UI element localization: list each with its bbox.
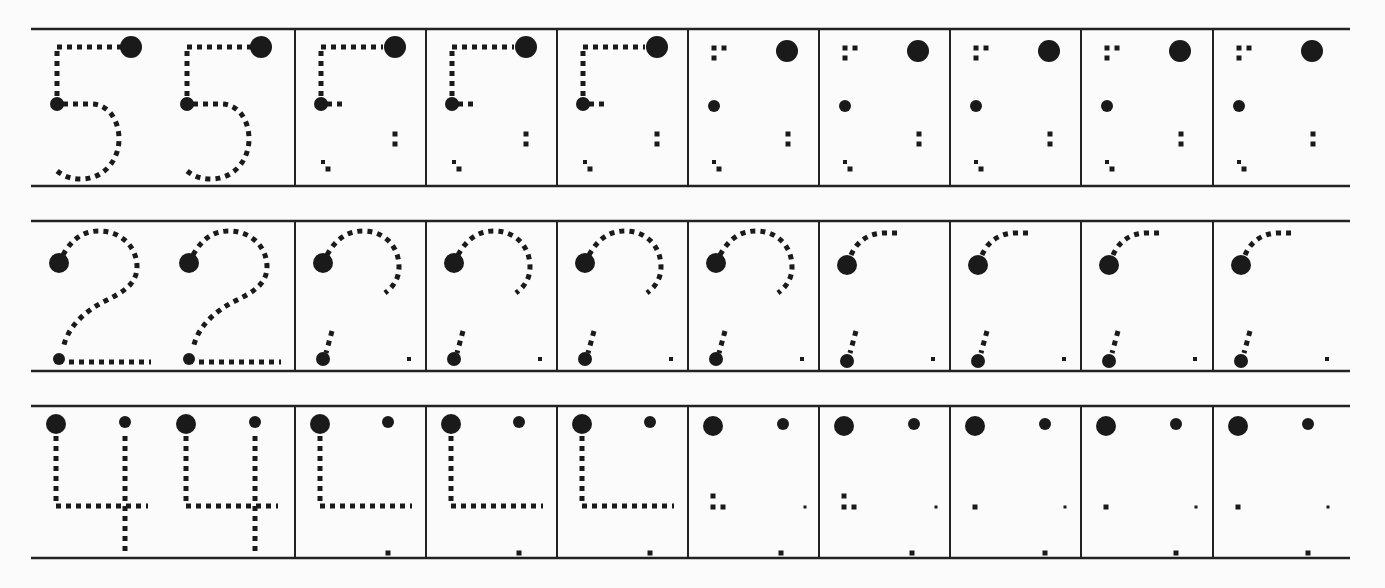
trace-dot [843,56,848,61]
trace-dots [327,231,399,293]
trace-dot [786,132,791,137]
trace-dot [321,160,325,164]
trace-dots [458,231,530,293]
start-dot-large [968,255,988,275]
start-dot-small [382,416,394,428]
start-dot-large [1099,255,1119,275]
trace-dot [712,160,716,164]
start-dot-large [49,253,69,273]
start-dot-small [50,97,64,111]
start-dot-large [1169,40,1191,62]
tracing-cell-4-9 [1096,416,1198,556]
trace-dots [589,231,661,293]
start-dot-small [180,97,194,111]
start-dot-large [706,253,726,273]
trace-dot [722,46,727,51]
tracing-cell-2-6 [706,231,804,366]
start-dot-large [1038,40,1060,62]
trace-dot [974,46,979,51]
trace-dots [1113,233,1163,255]
trace-dots [185,104,249,179]
trace-dot [910,551,915,556]
tracing-cell-2-1 [49,231,151,365]
start-dot-large [1231,255,1251,275]
trace-dots [457,331,463,353]
trace-dot [1105,56,1110,61]
tracing-cell-4-3 [310,414,412,556]
tracing-cell-5-1 [50,36,142,179]
start-dot-small [1234,354,1248,368]
trace-dot [917,142,922,147]
trace-dot [1179,142,1184,147]
trace-dot [1311,132,1316,137]
trace-dot [843,160,847,164]
start-dot-large [965,416,985,436]
trace-dot [974,56,979,61]
tracing-cell-2-3 [313,231,411,366]
tracing-cell-5-7 [839,40,929,172]
trace-dot [721,505,726,510]
trace-dot [917,132,922,137]
start-dot-large [776,40,798,62]
worksheet-canvas [0,0,1385,588]
trace-dots [981,331,987,353]
trace-dot [1105,46,1110,51]
trace-dot [1237,160,1241,164]
trace-dot [1179,132,1184,137]
trace-dot [1237,56,1242,61]
start-dot-small [314,97,328,111]
trace-dot [1195,506,1198,509]
trace-dot [973,505,978,510]
trace-dots [850,331,856,353]
start-dot-small [840,354,854,368]
trace-dot [842,505,847,510]
start-dot-large [1228,416,1248,436]
tracing-cell-5-10 [1233,40,1323,172]
start-dot-large [834,416,854,436]
trace-dot [1043,551,1048,556]
start-dot-small [1170,418,1182,430]
tracing-cell-4-4 [441,414,543,556]
trace-dot [711,494,716,499]
start-dot-small [709,352,723,366]
start-dot-large [703,416,723,436]
trace-dots [326,331,332,353]
start-dot-large [384,36,406,58]
start-dot-small [445,97,459,111]
practice-row-4 [31,406,1350,558]
trace-dots [720,231,792,293]
trace-dot [853,46,858,51]
tracing-cell-5-8 [970,40,1060,172]
start-dot-large [250,36,272,58]
tracing-cell-5-6 [708,40,798,172]
trace-dot [538,357,542,361]
start-dot-large [441,414,461,434]
start-dot-small [1302,418,1314,430]
start-dot-small [119,416,131,428]
trace-dot [1325,357,1329,361]
start-dot-small [908,418,920,430]
trace-dots [55,104,119,179]
trace-dot [800,357,804,361]
start-dot-small [447,352,461,366]
tracing-cell-2-7 [837,233,935,368]
trace-dot [457,167,462,172]
trace-dot [1064,506,1067,509]
start-dot-large [515,36,537,58]
tracing-cell-5-2 [180,36,272,179]
trace-dots [1244,331,1250,353]
trace-dot [648,551,653,556]
trace-dot [393,142,398,147]
trace-dot [931,357,935,361]
start-dot-small [249,416,261,428]
start-dot-small [970,100,982,112]
trace-dot [1105,160,1109,164]
tracing-cell-5-5 [576,36,668,172]
tracing-cell-4-10 [1228,416,1330,556]
trace-dot [984,46,989,51]
trace-dot [842,494,847,499]
start-dot-large [120,36,142,58]
trace-dot [1327,506,1330,509]
trace-dot [1311,142,1316,147]
start-dot-small [644,416,656,428]
